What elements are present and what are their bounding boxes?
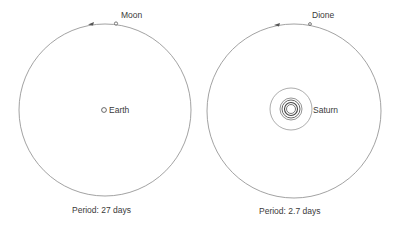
- moon-label: Moon: [121, 11, 142, 20]
- dione-marker: [309, 23, 312, 26]
- saturn-body: [287, 105, 296, 114]
- earth-label: Earth: [109, 106, 129, 115]
- saturn-outer-orbit: [270, 88, 312, 130]
- dione-period-label: Period: 2.7 days: [259, 207, 320, 216]
- moon-orbit-diagram: [19, 22, 191, 196]
- saturn-ring-outer: [280, 98, 302, 120]
- moon-period-label: Period: 27 days: [72, 206, 131, 215]
- dione-orbit-path: [207, 24, 381, 198]
- dione-orbit-diagram: [207, 23, 381, 198]
- orbit-direction-arrow-icon: [88, 22, 94, 26]
- saturn-label: Saturn: [313, 106, 338, 115]
- earth-marker: [102, 108, 107, 113]
- moon-marker: [114, 22, 117, 25]
- dione-label: Dione: [312, 11, 334, 20]
